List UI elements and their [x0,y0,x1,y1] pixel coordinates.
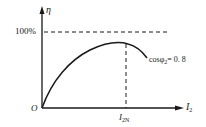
rated-current-label: I2N [119,113,129,123]
efficiency-curve [42,43,147,108]
reference-label: 100% [15,27,36,36]
annotation-value: = 0. 8 [167,55,186,64]
x-axis-label: I2 [186,102,192,113]
power-factor-annotation: cosφ2= 0. 8 [149,56,186,65]
rated-current-label-sub: 2N [122,117,129,123]
y-axis-label: η [46,5,51,15]
annotation-cos: cosφ [149,55,164,64]
origin-label: O [31,104,38,113]
x-axis-label-sub: 2 [189,107,192,113]
y-axis-arrow-icon [40,6,45,14]
x-axis-arrow-icon [175,106,184,111]
